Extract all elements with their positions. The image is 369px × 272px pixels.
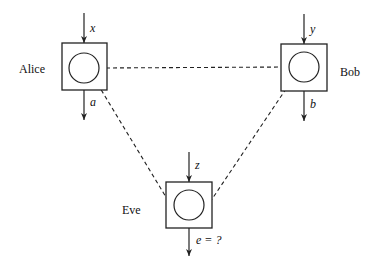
bob-box [281, 44, 327, 91]
alice-label: Alice [19, 62, 45, 76]
eve-node: Eve z e = ? [122, 152, 221, 256]
link-alice-bob [99, 67, 289, 68]
eve-label: Eve [122, 203, 141, 217]
alice-output-label: a [90, 95, 96, 109]
link-bob-eve [200, 77, 294, 217]
bob-node: Bob y b [281, 14, 360, 121]
bob-label: Bob [340, 65, 360, 79]
bob-input-label: y [309, 22, 316, 36]
alice-input-label: x [89, 21, 96, 35]
eve-box [166, 182, 212, 228]
tripartite-diagram: Alice x a Bob y b Eve z e = ? [0, 0, 369, 272]
eve-output-label: e = ? [196, 233, 221, 247]
bob-output-label: b [310, 97, 316, 111]
eve-input-label: z [194, 158, 200, 172]
alice-node: Alice x a [19, 13, 107, 120]
